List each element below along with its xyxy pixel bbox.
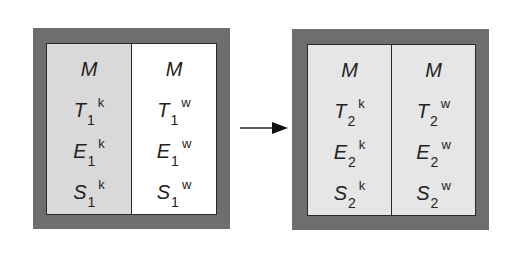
superscript: k — [98, 177, 105, 192]
var-label: E — [73, 138, 86, 164]
cell-M: M — [132, 56, 216, 82]
cell-T2k: T2k — [308, 98, 391, 124]
superscript: k — [98, 136, 105, 151]
subscript: 2 — [430, 113, 438, 129]
subscript: 2 — [348, 154, 356, 170]
var-label: E — [416, 139, 429, 165]
superscript: w — [182, 136, 191, 151]
var-label: S — [73, 179, 86, 205]
cell-M: M — [392, 57, 475, 83]
var-label: M — [425, 57, 442, 83]
superscript: k — [359, 178, 366, 193]
cell-T1k: T1k — [47, 97, 131, 123]
subscript: 1 — [171, 153, 179, 169]
cell-S2k: S2k — [308, 180, 391, 206]
superscript: w — [181, 95, 190, 110]
right-state-box: M T2k E2k S2k M T2w E2w S2w — [292, 29, 489, 230]
subscript: 1 — [88, 194, 96, 210]
superscript: w — [441, 178, 450, 193]
subscript: 1 — [171, 112, 179, 128]
cell-S1w: S1w — [132, 179, 216, 205]
superscript: w — [441, 96, 450, 111]
var-label: T — [157, 97, 169, 123]
left-column-k: M T1k E1k S1k — [47, 44, 131, 214]
var-label: M — [166, 56, 183, 82]
subscript: 1 — [88, 153, 96, 169]
cell-S1k: S1k — [47, 179, 131, 205]
var-label: S — [157, 179, 170, 205]
cell-E1w: E1w — [132, 138, 216, 164]
var-label: T — [334, 98, 346, 124]
left-inner-panel: M T1k E1k S1k M T1w E1w S1w — [46, 43, 217, 215]
subscript: 1 — [171, 194, 179, 210]
cell-E2w: E2w — [392, 139, 475, 165]
right-column-k: M T2k E2k S2k — [308, 45, 391, 215]
left-column-w: M T1w E1w S1w — [131, 44, 216, 214]
superscript: k — [358, 96, 365, 111]
right-column-w: M T2w E2w S2w — [391, 45, 475, 215]
var-label: T — [74, 97, 86, 123]
right-inner-panel: M T2k E2k S2k M T2w E2w S2w — [307, 44, 476, 216]
var-label: M — [341, 57, 358, 83]
subscript: 2 — [348, 195, 356, 211]
cell-E2k: E2k — [308, 139, 391, 165]
var-label: S — [416, 180, 429, 206]
subscript: 2 — [431, 195, 439, 211]
var-label: T — [417, 98, 429, 124]
cell-S2w: S2w — [392, 180, 475, 206]
superscript: w — [182, 177, 191, 192]
var-label: E — [334, 139, 347, 165]
left-state-box: M T1k E1k S1k M T1w E1w S1w — [33, 28, 230, 229]
cell-E1k: E1k — [47, 138, 131, 164]
cell-T1w: T1w — [132, 97, 216, 123]
superscript: w — [441, 137, 450, 152]
var-label: S — [334, 180, 347, 206]
cell-M: M — [47, 56, 131, 82]
superscript: k — [359, 137, 366, 152]
cell-T2w: T2w — [392, 98, 475, 124]
subscript: 2 — [431, 154, 439, 170]
cell-M: M — [308, 57, 391, 83]
subscript: 2 — [347, 113, 355, 129]
var-label: E — [157, 138, 170, 164]
subscript: 1 — [87, 112, 95, 128]
superscript: k — [98, 95, 105, 110]
var-label: M — [81, 56, 98, 82]
arrow-right-icon — [238, 120, 290, 136]
